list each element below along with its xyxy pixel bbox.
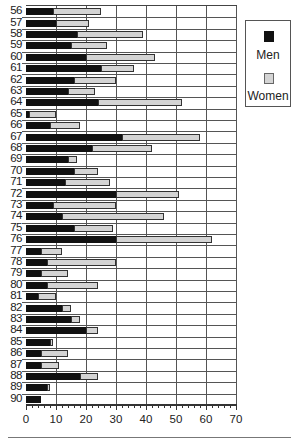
y-label-70: 70 xyxy=(2,165,22,176)
gridline-x-60 xyxy=(206,6,207,405)
gridline-row xyxy=(22,177,236,178)
gridline-row xyxy=(22,302,236,303)
bar-men-73 xyxy=(26,202,53,209)
y-label-58: 58 xyxy=(2,28,22,39)
gridline-row xyxy=(22,200,236,201)
x-tick xyxy=(230,404,231,408)
gridline-row xyxy=(22,211,236,212)
x-tick xyxy=(122,404,123,408)
x-label-20: 20 xyxy=(74,413,98,425)
x-tick xyxy=(74,404,75,408)
y-label-63: 63 xyxy=(2,85,22,96)
bar-women-78 xyxy=(47,259,116,266)
x-tick xyxy=(206,404,207,410)
bar-women-70 xyxy=(74,168,98,175)
y-label-57: 57 xyxy=(2,17,22,28)
x-tick xyxy=(218,404,219,408)
gridline-row xyxy=(22,314,236,315)
bar-men-83 xyxy=(26,316,71,323)
y-label-78: 78 xyxy=(2,256,22,267)
gridline-row xyxy=(22,337,236,338)
bar-men-66 xyxy=(26,122,50,129)
y-label-87: 87 xyxy=(2,359,22,370)
x-tick xyxy=(140,404,141,408)
bar-women-89 xyxy=(47,384,50,391)
y-label-89: 89 xyxy=(2,381,22,392)
y-label-82: 82 xyxy=(2,302,22,313)
bar-men-58 xyxy=(26,31,77,38)
gridline-row xyxy=(22,371,236,372)
x-tick xyxy=(200,404,201,408)
y-label-88: 88 xyxy=(2,370,22,381)
bar-women-82 xyxy=(62,305,71,312)
x-tick xyxy=(212,404,213,408)
y-label-85: 85 xyxy=(2,336,22,347)
bar-men-79 xyxy=(26,270,41,277)
bar-men-69 xyxy=(26,156,68,163)
y-label-67: 67 xyxy=(2,131,22,142)
bar-men-87 xyxy=(26,362,41,369)
bar-women-69 xyxy=(68,156,77,163)
bar-men-74 xyxy=(26,213,62,220)
bar-women-66 xyxy=(50,122,80,129)
gridline-row xyxy=(22,257,236,258)
y-label-90: 90 xyxy=(2,393,22,404)
y-label-65: 65 xyxy=(2,108,22,119)
gridline-x-70 xyxy=(236,6,237,405)
y-label-72: 72 xyxy=(2,188,22,199)
bar-women-56 xyxy=(53,8,101,15)
bar-women-81 xyxy=(38,293,56,300)
bar-men-65 xyxy=(26,111,29,118)
x-tick xyxy=(236,404,237,410)
bar-men-90 xyxy=(26,396,41,403)
x-tick xyxy=(104,404,105,408)
gridline-row xyxy=(22,234,236,235)
gridline-row xyxy=(22,40,236,41)
bar-men-63 xyxy=(26,88,68,95)
gridline-row xyxy=(22,325,236,326)
x-tick xyxy=(158,404,159,408)
bar-men-82 xyxy=(26,305,62,312)
bar-women-61 xyxy=(101,65,134,72)
bar-women-72 xyxy=(116,191,179,198)
gridline-row xyxy=(22,188,236,189)
bar-men-86 xyxy=(26,350,41,357)
y-label-61: 61 xyxy=(2,62,22,73)
bar-men-64 xyxy=(26,99,98,106)
x-label-50: 50 xyxy=(164,413,188,425)
y-label-79: 79 xyxy=(2,267,22,278)
y-label-56: 56 xyxy=(2,5,22,16)
y-label-69: 69 xyxy=(2,153,22,164)
y-label-80: 80 xyxy=(2,279,22,290)
bar-women-62 xyxy=(74,77,116,84)
x-tick xyxy=(146,404,147,410)
bar-men-72 xyxy=(26,191,116,198)
y-label-81: 81 xyxy=(2,290,22,301)
x-tick xyxy=(38,404,39,408)
x-tick xyxy=(128,404,129,408)
x-tick xyxy=(26,404,27,410)
x-tick xyxy=(80,404,81,408)
bar-women-87 xyxy=(41,362,59,369)
bar-men-71 xyxy=(26,179,65,186)
bar-women-74 xyxy=(62,213,164,220)
bar-men-59 xyxy=(26,42,71,49)
bar-men-68 xyxy=(26,145,92,152)
x-tick xyxy=(224,404,225,408)
plot-area xyxy=(26,5,237,405)
legend-label-women: Women xyxy=(246,89,290,103)
bar-women-67 xyxy=(122,134,200,141)
x-tick xyxy=(134,404,135,408)
y-label-71: 71 xyxy=(2,176,22,187)
y-label-60: 60 xyxy=(2,51,22,62)
stacked-bar-chart: 5657585960616263646566676869707172737475… xyxy=(0,0,301,442)
x-tick xyxy=(98,404,99,408)
y-label-84: 84 xyxy=(2,324,22,335)
bar-women-57 xyxy=(56,20,89,27)
gridline-row xyxy=(22,29,236,30)
y-label-86: 86 xyxy=(2,347,22,358)
gridline-x-50 xyxy=(176,6,177,405)
gridline-row xyxy=(22,223,236,224)
bar-men-89 xyxy=(26,384,47,391)
bar-women-68 xyxy=(92,145,152,152)
